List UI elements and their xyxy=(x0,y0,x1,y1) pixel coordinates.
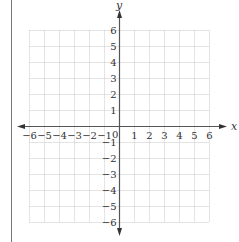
x-tick-label: −2 xyxy=(82,130,97,141)
y-axis-down-arrow-icon xyxy=(117,228,122,236)
y-tick-label: −4 xyxy=(102,185,117,196)
x-tick-label: 6 xyxy=(206,130,212,141)
x-tick-label: 5 xyxy=(191,130,197,141)
x-tick-label: −5 xyxy=(37,130,52,141)
x-axis-right-arrow-icon xyxy=(219,124,227,129)
x-tick-label: 3 xyxy=(161,130,167,141)
y-tick-label: 3 xyxy=(110,73,116,84)
x-tick-label: 2 xyxy=(146,130,152,141)
y-tick-label: 5 xyxy=(110,41,116,52)
y-tick-label: 6 xyxy=(110,25,116,36)
y-tick-label: −2 xyxy=(102,153,117,164)
y-tick-label: −6 xyxy=(102,217,117,228)
x-axis-label: x xyxy=(231,120,238,133)
y-tick-label: −3 xyxy=(102,169,117,180)
y-tick-label: −5 xyxy=(102,201,117,212)
y-tick-label: 4 xyxy=(110,57,116,68)
x-tick-label: 1 xyxy=(131,130,137,141)
y-tick-label: 1 xyxy=(110,105,116,116)
x-axis-left-arrow-icon xyxy=(17,124,25,129)
y-tick-label: 2 xyxy=(110,89,116,100)
x-tick-label: −6 xyxy=(22,130,37,141)
x-tick-label: 4 xyxy=(176,130,182,141)
coordinate-plane-figure: x y −6−5−4−3−2−1123456 654321−1−2−3−4−5−… xyxy=(0,0,239,242)
y-axis-label: y xyxy=(115,0,123,12)
origin-label: 0 xyxy=(112,129,118,140)
x-tick-label: −4 xyxy=(52,130,67,141)
coordinate-plane-svg: x y −6−5−4−3−2−1123456 654321−1−2−3−4−5−… xyxy=(0,0,239,242)
x-tick-label: −3 xyxy=(67,130,82,141)
